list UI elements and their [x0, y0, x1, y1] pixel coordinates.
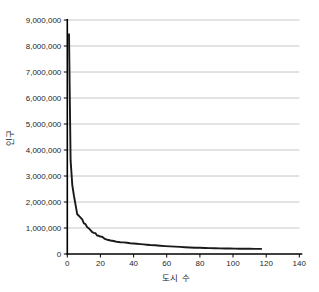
x-tick-label: 120 — [260, 259, 274, 268]
y-tick-label: 4,000,000 — [26, 146, 62, 155]
x-axis-title: 도시 수 — [162, 271, 190, 283]
x-tick-label: 80 — [195, 259, 204, 268]
x-tick-label: 100 — [226, 259, 240, 268]
x-tick-label: 40 — [129, 259, 138, 268]
y-tick-label: 2,000,000 — [26, 198, 62, 207]
x-tick-label: 140 — [293, 259, 307, 268]
x-tick-label: 0 — [65, 259, 70, 268]
chart-canvas: 01,000,0002,000,0003,000,0004,000,0005,0… — [0, 0, 319, 292]
y-tick-label: 9,000,000 — [26, 16, 62, 25]
y-tick-label: 6,000,000 — [26, 94, 62, 103]
y-tick-label: 7,000,000 — [26, 68, 62, 77]
x-tick-label: 60 — [162, 259, 171, 268]
y-axis-title: 인구 — [3, 130, 15, 146]
y-tick-label: 0 — [57, 250, 62, 259]
rank-size-chart: 01,000,0002,000,0003,000,0004,000,0005,0… — [0, 0, 319, 292]
y-tick-label: 8,000,000 — [26, 42, 62, 51]
y-tick-label: 3,000,000 — [26, 172, 62, 181]
y-tick-label: 5,000,000 — [26, 120, 62, 129]
x-tick-label: 20 — [96, 259, 105, 268]
population-curve — [69, 34, 261, 249]
y-tick-label: 1,000,000 — [26, 224, 62, 233]
